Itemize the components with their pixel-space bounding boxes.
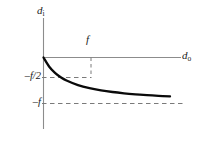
x-axis-label-main: d — [182, 49, 188, 61]
figure-container: di do f –f/2 –f — [0, 0, 206, 141]
data-curve — [44, 58, 171, 97]
x-tick-label-focal: f — [86, 34, 89, 45]
x-axis-label: do — [182, 50, 191, 61]
x-axis-label-subscript: o — [188, 54, 192, 63]
y-tick-label-neg-f: –f — [9, 97, 41, 108]
y-axis-label-subscript: i — [43, 9, 45, 18]
y-axis-label: di — [37, 5, 45, 16]
y-tick-label-neg-f-half: –f/2 — [9, 71, 41, 82]
y-axis-label-main: d — [37, 4, 43, 16]
